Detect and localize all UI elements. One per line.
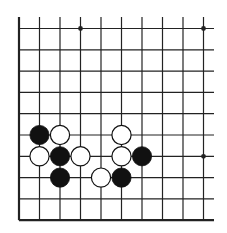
white-stone — [30, 147, 49, 166]
board-grid — [19, 17, 214, 220]
go-board[interactable] — [0, 0, 227, 233]
white-stone — [112, 125, 131, 144]
black-stone — [132, 147, 151, 166]
white-stone — [71, 147, 90, 166]
black-stone — [50, 147, 69, 166]
star-point — [78, 26, 83, 31]
black-stone — [112, 168, 131, 187]
white-stone — [50, 125, 69, 144]
white-stone — [91, 168, 110, 187]
star-point — [201, 154, 206, 159]
white-stone — [112, 147, 131, 166]
star-point — [201, 26, 206, 31]
black-stone — [50, 168, 69, 187]
black-stone — [30, 125, 49, 144]
